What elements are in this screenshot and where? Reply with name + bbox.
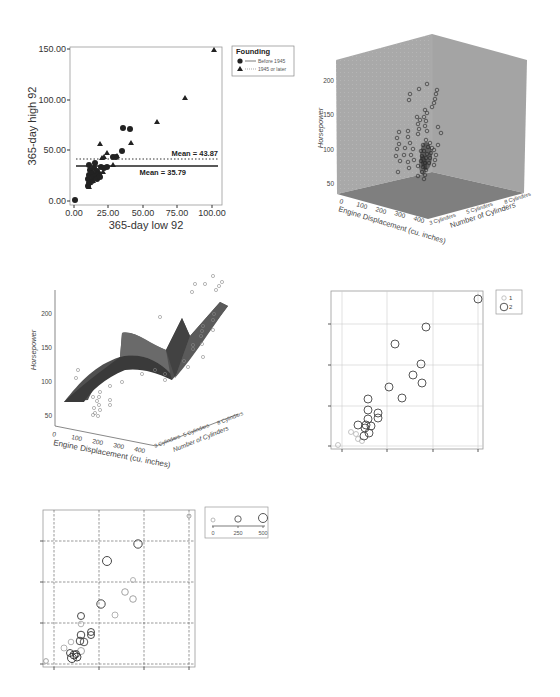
legend-tick-label: 250 <box>233 530 242 536</box>
3d-surface-chart: 200 150 100 50 Horsepower 0 100 200 300 … <box>30 270 290 480</box>
x-tick-label: 75.00 <box>166 208 189 218</box>
z-tick-label: 50 <box>327 180 335 187</box>
z-tick-label: 50 <box>45 412 53 419</box>
legend-two-sizes: 1 2 <box>496 290 522 314</box>
legend-title: Founding <box>236 47 271 56</box>
z-tick-label: 200 <box>41 310 52 317</box>
y-axis-label: 365-day high 92 <box>26 87 38 166</box>
3d-scatter-chart: 200 150 100 50 Horsepower 0 100 200 300 … <box>300 25 560 255</box>
bubble-size-scale-svg: 0 250 500 <box>35 500 280 680</box>
legend-founding: Founding Before 1945 1945 or later <box>232 46 294 76</box>
y-tick-label: 100.00 <box>38 95 66 105</box>
x-tick-label: 0.00 <box>65 208 83 218</box>
y-tick-label: 50.00 <box>43 145 66 155</box>
x-tick-label: 25.00 <box>97 208 120 218</box>
3d-scatter-svg: 200 150 100 50 Horsepower 0 100 200 300 … <box>300 25 560 255</box>
mean-label-before: Mean = 35.79 <box>140 168 187 177</box>
z-axis: 200 150 100 50 <box>41 310 52 419</box>
back-wall-right <box>432 34 527 193</box>
back-wall-left <box>336 34 432 194</box>
z-axis-label: Horsepower <box>30 329 38 370</box>
z-tick-label: 150 <box>41 344 52 351</box>
plot-frame <box>43 510 195 667</box>
z-axis-label: Horsepower <box>316 107 325 148</box>
bubble-two-sizes-svg: 1 2 <box>320 280 540 460</box>
x-axis-label: 365-day low 92 <box>109 219 184 231</box>
legend-label-before-1945: Before 1945 <box>258 58 285 64</box>
x-tick-label: 0 <box>52 430 57 438</box>
regression-surface <box>64 302 228 402</box>
legend-label-1945-or-later: 1945 or later <box>258 66 286 72</box>
y-tick-label: 0.00 <box>48 196 66 206</box>
mean-label-after: Mean = 43.87 <box>172 149 219 158</box>
circle-marker-icon <box>237 58 242 63</box>
3d-surface-svg: 200 150 100 50 Horsepower 0 100 200 300 … <box>30 270 290 480</box>
x-tick-label: 100.00 <box>198 208 226 218</box>
y-tick-label: 150.00 <box>38 44 66 54</box>
legend-size-scale: 0 250 500 <box>205 507 268 538</box>
z-tick-label: 200 <box>323 77 334 84</box>
y-axis: 150.00 100.00 50.00 0.00 <box>38 44 70 206</box>
bubble-two-sizes-chart: 1 2 <box>320 280 540 460</box>
legend-tick-label: 0 <box>211 530 214 536</box>
z-tick-label: 100 <box>41 378 52 385</box>
x-tick-label: 50.00 <box>132 208 155 218</box>
scatter-founding-svg: 150.00 100.00 50.00 0.00 365-day high 92… <box>0 40 300 240</box>
scatter-founding-chart: 150.00 100.00 50.00 0.00 365-day high 92… <box>0 40 300 240</box>
x-axis: 0.00 25.00 50.00 75.00 100.00 <box>65 205 226 218</box>
y-tick-label: 8 Cylinders <box>216 410 244 426</box>
bubble-size-scale-chart: 0 250 500 <box>35 500 280 680</box>
legend-tick-label: 500 <box>258 530 267 536</box>
